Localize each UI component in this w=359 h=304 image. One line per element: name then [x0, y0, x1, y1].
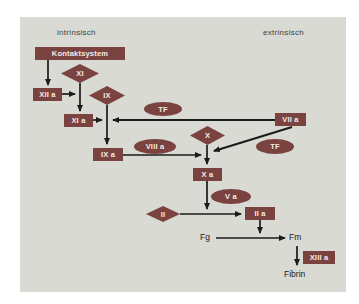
figure-canvas: intrinsisch extrinsisch Kontaktsystem XI…	[0, 0, 359, 304]
factor-xiiia-box: XIII a	[303, 251, 335, 264]
label-extrinsisch: extrinsisch	[263, 28, 304, 37]
fibrin-label: Fibrin	[284, 269, 305, 279]
factor-iia-box: II a	[245, 207, 275, 220]
tf-ellipse-intrinsic: TF	[144, 102, 182, 116]
fm-label: Fm	[289, 232, 301, 242]
factor-viiia-ellipse: VIII a	[134, 139, 176, 154]
factor-xiia-box: XII a	[33, 88, 62, 101]
factor-va-ellipse: V a	[211, 189, 251, 204]
factor-xia-box: XI a	[64, 114, 93, 127]
factor-ixa-box: IX a	[93, 148, 123, 161]
kontaktsystem-box: Kontaktsystem	[35, 47, 125, 60]
factor-viia-box: VII a	[275, 113, 306, 126]
factor-xa-box: X a	[193, 168, 222, 181]
label-intrinsisch: intrinsisch	[57, 28, 96, 37]
tf-ellipse-extrinsic: TF	[256, 139, 294, 154]
fg-label: Fg	[200, 232, 210, 242]
